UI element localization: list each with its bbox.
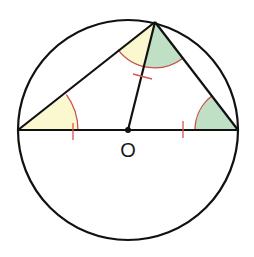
side-CB — [155, 22, 238, 130]
angle-fill-A — [18, 95, 78, 130]
side-AC — [18, 22, 155, 130]
center-point-O — [125, 127, 131, 133]
circle-triangle-diagram: O — [0, 0, 254, 257]
center-label: O — [120, 139, 136, 161]
